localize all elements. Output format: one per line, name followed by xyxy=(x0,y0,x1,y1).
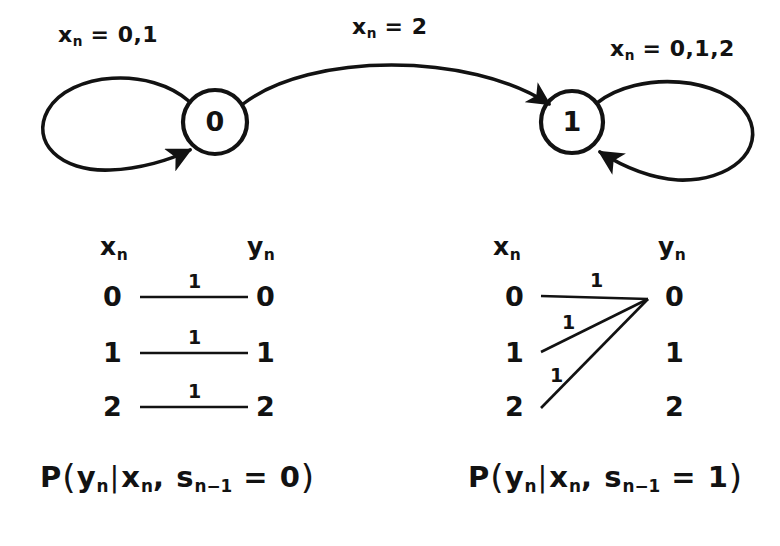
state-node-1-label: 1 xyxy=(552,106,592,137)
trellis-state-1-edge-0-0 xyxy=(541,296,648,299)
trellis-state-1-caption-eq: = 1 xyxy=(671,460,729,494)
trellis-state-0-output-header-base: y xyxy=(247,232,264,261)
trellis-state-1-caption: P(yn|xn, sn−1 = 1) xyxy=(468,455,743,495)
self-loop-state-0-label-value: = 0,1 xyxy=(91,22,159,47)
trellis-state-0-edge-2-2-prob: 1 xyxy=(188,380,202,402)
trellis-state-0-edge-0-0-prob: 1 xyxy=(188,270,202,292)
trellis-state-0-caption-y-sub: n xyxy=(97,476,109,496)
transition-0-to-1-label-base: x xyxy=(352,14,367,39)
trellis-state-1-output-1: 1 xyxy=(665,337,684,368)
trellis-state-1-caption-open-paren: ( xyxy=(490,457,504,497)
state-node-0-label: 0 xyxy=(195,106,235,137)
trellis-state-1-input-header: xn xyxy=(493,232,521,261)
transition-0-to-1-label: xn = 2 xyxy=(352,14,427,39)
trellis-state-1-output-header: yn xyxy=(658,232,686,261)
trellis-state-1-caption-close-paren: ) xyxy=(729,457,743,497)
trellis-state-0-input-header-base: x xyxy=(100,232,117,261)
trellis-state-1-caption-y-sub: n xyxy=(525,476,537,496)
transition-0-to-1-path xyxy=(243,65,549,104)
self-loop-state-1-label-value: = 0,1,2 xyxy=(643,36,735,61)
trellis-state-0-caption-eq: = 0 xyxy=(243,460,301,494)
self-loop-state-1-label-sub: n xyxy=(625,47,635,63)
trellis-state-0-caption-s: s xyxy=(176,460,194,494)
trellis-state-1-caption-s: s xyxy=(604,460,622,494)
trellis-state-1-caption-y: y xyxy=(505,460,525,494)
trellis-state-0-input-header-sub: n xyxy=(117,246,128,264)
trellis-state-0-input-1: 1 xyxy=(103,337,122,368)
trellis-state-0-caption-close-paren: ) xyxy=(301,457,315,497)
trellis-state-1-input-1: 1 xyxy=(505,337,524,368)
trellis-state-0-caption-x: x xyxy=(121,460,141,494)
self-loop-state-0-label-base: x xyxy=(58,22,73,47)
trellis-state-0-input-2: 2 xyxy=(103,391,122,422)
trellis-state-1-input-header-sub: n xyxy=(510,246,521,264)
self-loop-state-0-label: xn = 0,1 xyxy=(58,22,158,47)
trellis-state-0-caption-s-sub: n−1 xyxy=(194,476,232,496)
trellis-state-0-caption-comma: , xyxy=(153,460,165,494)
trellis-state-1-caption-p: P xyxy=(468,460,490,494)
trellis-state-0-caption-p: P xyxy=(40,460,62,494)
trellis-state-0-output-header-sub: n xyxy=(264,246,275,264)
trellis-state-0-output-header: yn xyxy=(247,232,275,261)
self-loop-state-1-label: xn = 0,1,2 xyxy=(610,36,735,61)
trellis-state-1-caption-x-sub: n xyxy=(569,476,581,496)
figure-canvas: xn = 0,1 xn = 2 xn = 0,1,2 0 1 xn yn 0 1… xyxy=(0,0,780,546)
trellis-state-0-caption-x-sub: n xyxy=(141,476,153,496)
trellis-state-0-output-1: 1 xyxy=(256,337,275,368)
trellis-state-0-caption-bar: | xyxy=(109,460,122,494)
trellis-state-1-input-header-base: x xyxy=(493,232,510,261)
trellis-state-0-output-0: 0 xyxy=(256,281,275,312)
trellis-state-1-output-0: 0 xyxy=(665,281,684,312)
trellis-state-0-output-2: 2 xyxy=(256,391,275,422)
trellis-state-0-caption-open-paren: ( xyxy=(62,457,76,497)
trellis-state-1-edge-2-0-prob: 1 xyxy=(550,364,564,386)
self-loop-state-0-path xyxy=(43,78,190,170)
trellis-state-1-edge-0-0-prob: 1 xyxy=(590,269,604,291)
trellis-state-1-output-header-sub: n xyxy=(675,246,686,264)
trellis-state-0-caption: P(yn|xn, sn−1 = 0) xyxy=(40,455,315,495)
self-loop-state-1-path xyxy=(597,82,753,180)
trellis-state-1-caption-comma: , xyxy=(581,460,593,494)
trellis-state-1-input-2: 2 xyxy=(505,391,524,422)
self-loop-state-1-label-base: x xyxy=(610,36,625,61)
trellis-state-1-output-2: 2 xyxy=(665,391,684,422)
transition-0-to-1-label-value: = 2 xyxy=(385,14,428,39)
trellis-state-1-input-0: 0 xyxy=(505,281,524,312)
trellis-state-0-input-header: xn xyxy=(100,232,128,261)
trellis-state-1-caption-s-sub: n−1 xyxy=(622,476,660,496)
trellis-state-1-caption-x: x xyxy=(549,460,569,494)
trellis-state-1-edge-1-0-prob: 1 xyxy=(562,311,576,333)
trellis-state-1-output-header-base: y xyxy=(658,232,675,261)
trellis-state-0-input-0: 0 xyxy=(103,281,122,312)
trellis-state-0-caption-y: y xyxy=(77,460,97,494)
trellis-state-1-caption-bar: | xyxy=(537,460,550,494)
self-loop-state-0-label-sub: n xyxy=(73,33,83,49)
transition-0-to-1-label-sub: n xyxy=(367,25,377,41)
trellis-state-0-edge-1-1-prob: 1 xyxy=(188,326,202,348)
trellis-state-1-edge-1-0 xyxy=(541,299,648,352)
trellis-state-1-edge-2-0 xyxy=(541,299,648,408)
